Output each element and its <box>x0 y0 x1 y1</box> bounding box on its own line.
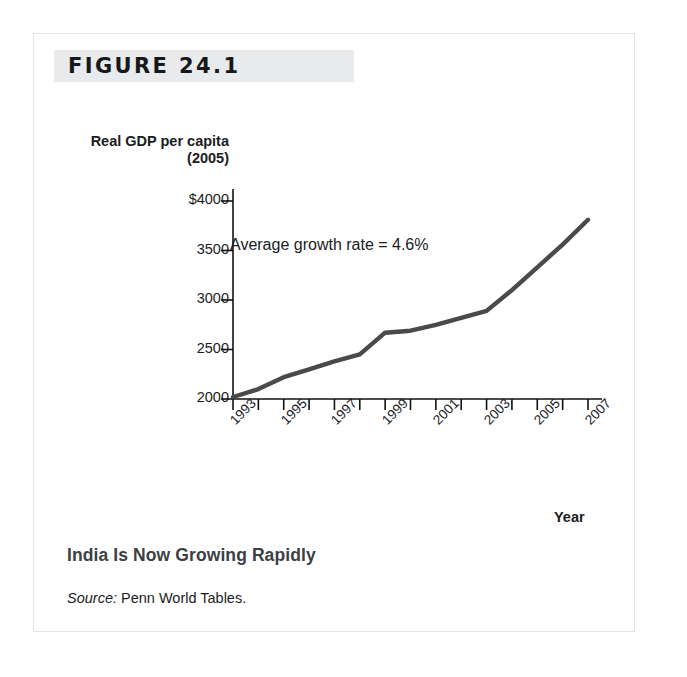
chart-canvas <box>34 34 636 504</box>
chart-plot-region: Real GDP per capita (2005) $400035003000… <box>34 34 636 504</box>
x-axis-title: Year <box>554 509 624 526</box>
figure-container: FIGURE 24.1 Real GDP per capita (2005) $… <box>33 33 635 632</box>
y-axis-ticks <box>221 201 233 399</box>
source-text: Penn World Tables. <box>117 590 246 606</box>
source-label: Source: <box>67 590 117 606</box>
figure-source-line: Source: Penn World Tables. <box>67 590 246 606</box>
average-growth-rate-annotation: Average growth rate = 4.6% <box>230 236 429 254</box>
figure-caption-title: India Is Now Growing Rapidly <box>67 545 316 566</box>
